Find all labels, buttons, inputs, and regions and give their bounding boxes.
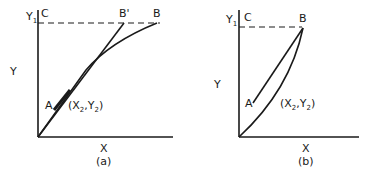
point-c-label-a: C: [41, 7, 49, 20]
x-axis-label-a: X: [100, 142, 108, 155]
diagram-canvas: Y1 C B' B Y A (X2,Y2) X (a) Y1 C B Y A (…: [0, 0, 365, 180]
curve-origin-to-b-b: [239, 28, 303, 137]
panel-b: Y1 C B Y A (X2,Y2) X (b): [213, 10, 359, 168]
caption-a: (a): [96, 155, 111, 168]
x-axis-label-b: X: [302, 142, 310, 155]
y-axis-label-b: Y: [213, 78, 221, 91]
point-b-label-b: B: [299, 12, 307, 25]
coord-label-b: (X2,Y2): [280, 97, 315, 112]
curve-origin-to-b: [38, 23, 157, 137]
y1-label-a: Y1: [25, 10, 37, 25]
point-a-label-a: A: [45, 99, 53, 112]
caption-b: (b): [298, 155, 314, 168]
point-a-label-b: A: [245, 97, 253, 110]
panel-a: Y1 C B' B Y A (X2,Y2) X (a): [9, 7, 173, 168]
coord-label-a: (X2,Y2): [68, 99, 103, 114]
point-b-prime-label: B': [119, 7, 130, 20]
y1-label-b: Y1: [225, 13, 237, 28]
point-c-label-b: C: [244, 11, 252, 24]
y-axis-label-a: Y: [9, 65, 17, 78]
point-b-label-a: B: [153, 7, 161, 20]
